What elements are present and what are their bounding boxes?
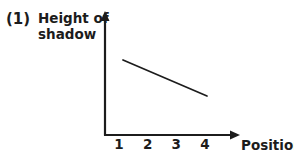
x-tick-label-2: 2 [143,138,153,152]
graph-figure: (1) Height of shadow 1 2 3 4 Position [0,0,294,164]
x-tick-label-1: 1 [114,138,124,152]
data-line-series-1 [123,60,207,96]
x-tick-label-3: 3 [171,138,181,152]
x-axis-arrowhead-icon [230,131,240,140]
x-axis-tick-labels: 1 2 3 4 [114,138,210,152]
x-tick-label-4: 4 [200,138,210,152]
y-axis-arrowhead-icon [101,11,110,21]
x-axis-title: Position [241,139,294,153]
